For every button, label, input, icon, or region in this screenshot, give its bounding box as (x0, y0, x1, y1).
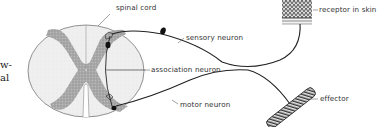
cell-body-sensory-synapse (106, 42, 111, 48)
label-receptor: receptor in skin (319, 5, 377, 14)
label-effector: effector (320, 94, 349, 103)
label-association-neuron: association neuron (151, 65, 221, 74)
skin-receptor-icon (282, 0, 312, 24)
effector-muscle-icon (265, 86, 317, 127)
label-sensory-neuron: sensory neuron (186, 33, 243, 42)
cell-body-motor (111, 106, 116, 110)
label-spinal-cord: spinal cord (116, 3, 156, 12)
label-motor-neuron: motor neuron (180, 100, 230, 109)
